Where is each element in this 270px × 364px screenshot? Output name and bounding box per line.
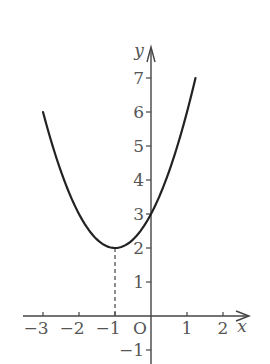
y-tick-label: 2 [133,238,144,258]
y-tick-label: 5 [133,136,144,156]
x-tick-label: 2 [218,318,229,338]
y-tick-label: 4 [133,170,144,190]
x-tick-label: 1 [182,318,193,338]
x-axis-label: x [237,316,247,336]
x-tick-label: −3 [23,318,48,338]
y-tick-label: 6 [133,102,144,122]
parabola-plot: −3−2−112−11234567Oxy [0,0,270,364]
y-axis-label: y [133,40,144,60]
parabola-curve [43,78,196,248]
y-tick-label: −1 [119,340,144,360]
origin-label: O [133,318,147,338]
y-tick-label: 3 [133,204,144,224]
x-tick-label: −2 [59,318,84,338]
y-tick-label: 1 [133,272,144,292]
parabola-line [43,78,196,248]
y-tick-label: 7 [133,68,144,88]
tick-labels: −3−2−112−11234567Oxy [23,40,247,360]
x-tick-label: −1 [95,318,120,338]
